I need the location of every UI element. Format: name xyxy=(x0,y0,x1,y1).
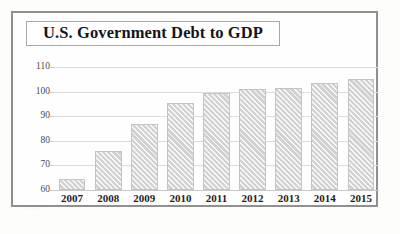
x-tick-label-2010: 2010 xyxy=(169,193,191,204)
x-tick-label-2009: 2009 xyxy=(133,193,155,204)
bar-2014[interactable] xyxy=(311,83,338,190)
chart-canvas: 60708090100110 2007200820092010201120122… xyxy=(13,13,376,205)
bar-2009[interactable] xyxy=(131,124,158,190)
y-tick-label: 100 xyxy=(36,87,50,97)
y-tick-mark xyxy=(50,116,54,117)
y-axis: 60708090100110 xyxy=(24,13,50,205)
y-tick-label: 70 xyxy=(41,161,51,171)
figure-frame: U.S. Government Debt to GDP 607080901001… xyxy=(11,11,378,207)
bar-2012[interactable] xyxy=(239,89,266,190)
x-tick-label-2007: 2007 xyxy=(61,193,83,204)
y-tick-mark xyxy=(50,165,54,166)
y-tick-mark xyxy=(50,190,54,191)
y-tick-label: 80 xyxy=(41,136,51,146)
y-tick-mark xyxy=(50,141,54,142)
x-tick-label-2014: 2014 xyxy=(314,193,336,204)
y-tick-label: 60 xyxy=(41,185,51,195)
y-tick-mark xyxy=(50,92,54,93)
x-tick-label-2015: 2015 xyxy=(350,193,372,204)
y-tick-label: 110 xyxy=(36,62,50,72)
bar-2015[interactable] xyxy=(348,79,375,190)
bar-2008[interactable] xyxy=(95,151,122,190)
gridline xyxy=(54,190,379,191)
bar-2013[interactable] xyxy=(275,88,302,190)
bar-2007[interactable] xyxy=(59,179,86,190)
y-tick-label: 90 xyxy=(41,111,51,121)
x-tick-label-2011: 2011 xyxy=(206,193,227,204)
scanned-page: U.S. Government Debt to GDP 607080901001… xyxy=(0,0,400,234)
x-axis: 200720082009201020112012201320142015 xyxy=(54,193,379,211)
bar-2011[interactable] xyxy=(203,93,230,190)
gridline xyxy=(54,67,379,68)
x-tick-label-2008: 2008 xyxy=(97,193,119,204)
x-tick-label-2013: 2013 xyxy=(278,193,300,204)
x-tick-label-2012: 2012 xyxy=(242,193,264,204)
y-tick-mark xyxy=(50,67,54,68)
plot-area xyxy=(54,67,379,190)
bar-2010[interactable] xyxy=(167,103,194,190)
